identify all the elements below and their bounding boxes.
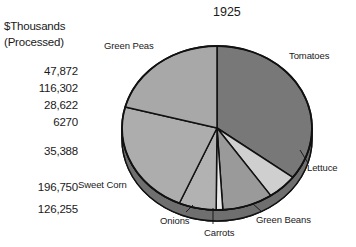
pie-chart-figure: 1925 $Thousands (Processed) 47,872 116,3… bbox=[0, 0, 356, 247]
slice-label-tomatoes: Tomatoes bbox=[289, 51, 329, 61]
slice-label-green-beans: Green Beans bbox=[256, 215, 311, 225]
slice-label-onions: Onions bbox=[160, 216, 190, 226]
slice-label-green-peas: Green Peas bbox=[104, 41, 154, 51]
slice-label-carrots: Carrots bbox=[204, 228, 234, 238]
pie-graphic bbox=[0, 0, 356, 247]
slice-label-sweet-corn: Sweet Corn bbox=[78, 180, 127, 190]
slice-label-lettuce: Lettuce bbox=[307, 163, 337, 173]
